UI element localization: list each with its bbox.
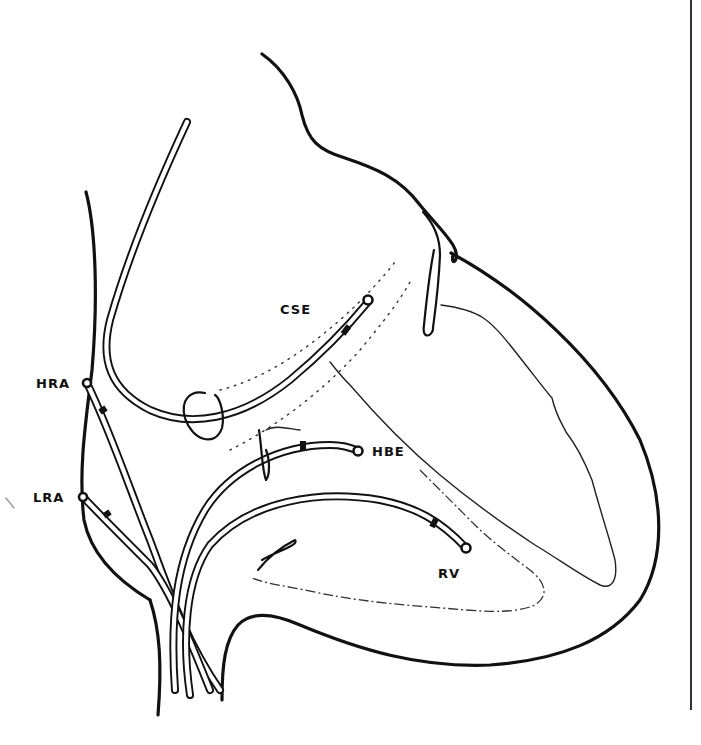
inner-chamber-outline bbox=[250, 212, 616, 611]
label-hbe: HBE bbox=[372, 444, 405, 459]
catheter-cse bbox=[106, 122, 372, 439]
label-cse: CSE bbox=[280, 302, 311, 317]
heart-outline bbox=[82, 54, 659, 715]
catheter-hra bbox=[83, 379, 220, 690]
scan-artifact bbox=[6, 498, 14, 508]
label-lra: LRA bbox=[33, 490, 64, 505]
heart-catheter-diagram: CSE HRA LRA HBE RV bbox=[0, 0, 701, 745]
label-rv: RV bbox=[438, 566, 460, 581]
catheter-rv bbox=[186, 496, 470, 695]
label-hra: HRA bbox=[36, 376, 70, 391]
